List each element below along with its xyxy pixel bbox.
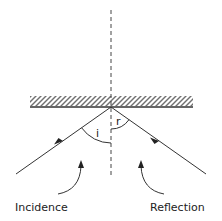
incidence-curve-arrow (58, 166, 81, 194)
angle-r-label: r (116, 115, 121, 128)
incidence-label: Incidence (15, 201, 68, 214)
reflection-curve-arrowhead-icon (138, 160, 144, 168)
incidence-curve-arrowhead-icon (78, 160, 84, 168)
reflection-curve-arrow (141, 166, 164, 194)
reflected-ray (111, 107, 206, 174)
reflected-arrow-icon (150, 138, 159, 145)
reflection-diagram: i r Incidence Reflection (0, 0, 222, 221)
angle-i-label: i (96, 127, 99, 140)
reflection-label: Reflection (150, 201, 205, 214)
